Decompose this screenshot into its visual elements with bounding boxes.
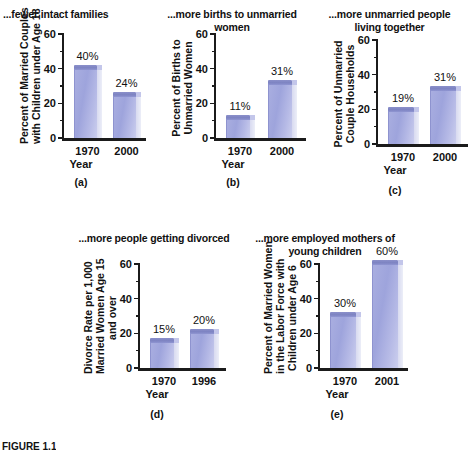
y-tick-minor-d-10 xyxy=(136,350,140,352)
y-tick-minor-c-10 xyxy=(374,126,378,128)
y-tick-major-c-40 xyxy=(372,74,378,76)
y-tick-major-a-40 xyxy=(58,68,64,70)
panel-label-c: (c) xyxy=(341,184,449,196)
bar-side xyxy=(456,90,461,144)
bar-face xyxy=(372,264,399,368)
y-tick-major-d-40 xyxy=(134,298,140,300)
y-tick-major-a-20 xyxy=(58,103,64,105)
x-axis-a xyxy=(62,138,146,141)
bar-b-2000 xyxy=(268,84,292,138)
y-tick-minor-c-50 xyxy=(374,57,378,59)
y-tick-minor-d-50 xyxy=(136,281,140,283)
bar-side-top xyxy=(414,107,419,112)
bar-top xyxy=(150,338,174,343)
y-axis-title-b: Percent of Births to Unmarried Women xyxy=(170,32,194,144)
y-tick-minor-b-10 xyxy=(212,120,216,122)
bar-top xyxy=(330,312,356,317)
x-axis-e xyxy=(318,368,408,371)
y-tick-major-b-20 xyxy=(210,103,216,105)
bar-d-1970 xyxy=(150,342,174,368)
bar-value-label-e-1970: 30% xyxy=(334,297,356,309)
y-tick-minor-a-10 xyxy=(60,120,64,122)
bar-face xyxy=(388,111,415,144)
bar-c-1970 xyxy=(388,111,414,144)
y-tick-major-e-60 xyxy=(314,263,320,265)
bar-b-1970 xyxy=(226,119,250,138)
y-tick-major-b-40 xyxy=(210,68,216,70)
bar-value-label-c-1970: 19% xyxy=(392,92,414,104)
x-tick-label-a-1970: 1970 xyxy=(75,145,99,157)
bar-c-2000 xyxy=(430,90,456,144)
figure-caption: FIGURE 1.1 xyxy=(2,441,56,452)
x-axis-c xyxy=(376,144,468,147)
bar-value-label-d-1970: 15% xyxy=(153,323,175,335)
bar-side-top xyxy=(292,80,297,85)
y-tick-minor-a-30 xyxy=(60,85,64,87)
x-axis-title-e: Year xyxy=(283,388,391,400)
bar-face xyxy=(113,96,137,138)
chart-title-b: ...more births to unmarried women xyxy=(156,8,308,33)
y-tick-major-c-60 xyxy=(372,39,378,41)
plot-box-a: 020406040%197024%2000 xyxy=(62,34,140,138)
bar-side-top xyxy=(398,260,403,265)
y-tick-major-c-20 xyxy=(372,109,378,111)
bar-top xyxy=(372,260,398,265)
bar-side xyxy=(356,316,361,368)
bar-value-label-e-2001: 60% xyxy=(376,245,398,257)
y-tick-minor-d-30 xyxy=(136,315,140,317)
bar-side-top xyxy=(356,312,361,317)
bar-side-top xyxy=(250,115,255,120)
bar-face xyxy=(150,342,175,368)
y-tick-major-e-0 xyxy=(314,367,320,369)
chart-panel-c: ...more unmarried people living together… xyxy=(310,8,469,213)
bar-top xyxy=(226,115,250,120)
y-tick-major-b-60 xyxy=(210,33,216,35)
x-tick-label-c-1970: 1970 xyxy=(391,151,415,163)
x-axis-title-c: Year xyxy=(341,164,449,176)
y-tick-major-e-20 xyxy=(314,333,320,335)
chart-panel-e: ...more employed mothers of young childr… xyxy=(240,232,410,432)
x-tick-label-b-2000: 2000 xyxy=(270,145,294,157)
x-axis-d xyxy=(138,368,226,371)
y-tick-minor-b-30 xyxy=(212,85,216,87)
bar-top xyxy=(388,107,414,112)
plot-box-c: 020406019%197031%2000 xyxy=(376,40,462,144)
bar-face xyxy=(330,316,357,368)
bar-side-top xyxy=(136,92,141,97)
bar-value-label-a-1970: 40% xyxy=(76,50,98,62)
x-axis-title-d: Year xyxy=(103,388,211,400)
y-tick-minor-e-50 xyxy=(316,281,320,283)
chart-title-c: ...more unmarried people living together xyxy=(310,8,469,33)
bar-side-top xyxy=(97,65,102,70)
bar-face xyxy=(190,333,215,368)
bar-a-2000 xyxy=(113,96,136,138)
y-tick-minor-b-50 xyxy=(212,51,216,53)
bar-value-label-c-2000: 31% xyxy=(434,71,456,83)
y-tick-major-b-0 xyxy=(210,137,216,139)
chart-panel-b: ...more births to unmarried women 020406… xyxy=(156,8,308,208)
bar-value-label-d-1996: 20% xyxy=(193,314,215,326)
y-tick-major-e-40 xyxy=(314,298,320,300)
bar-side xyxy=(214,333,219,368)
x-tick-label-a-2000: 2000 xyxy=(114,145,138,157)
bar-e-1970 xyxy=(330,316,356,368)
bar-top xyxy=(74,65,97,70)
y-tick-minor-a-50 xyxy=(60,51,64,53)
x-tick-label-e-2001: 2001 xyxy=(375,375,399,387)
bar-side-top xyxy=(214,329,219,334)
x-axis-b xyxy=(214,138,306,141)
y-axis-title-a: Percent of Married Couples with Children… xyxy=(18,32,42,144)
bar-top xyxy=(190,329,214,334)
y-tick-major-c-0 xyxy=(372,143,378,145)
bar-side xyxy=(414,111,419,144)
bar-face xyxy=(226,119,251,138)
plot-box-b: 020406011%197031%2000 xyxy=(214,34,300,138)
y-tick-minor-e-10 xyxy=(316,350,320,352)
plot-box-d: 020406015%197020%1996 xyxy=(138,264,220,368)
y-axis-title-c: Percent of Unmarried Couple Households xyxy=(332,38,356,150)
bar-top xyxy=(113,92,136,97)
x-tick-label-c-2000: 2000 xyxy=(433,151,457,163)
y-tick-major-d-0 xyxy=(134,367,140,369)
y-tick-major-a-60 xyxy=(58,33,64,35)
y-tick-major-d-60 xyxy=(134,263,140,265)
